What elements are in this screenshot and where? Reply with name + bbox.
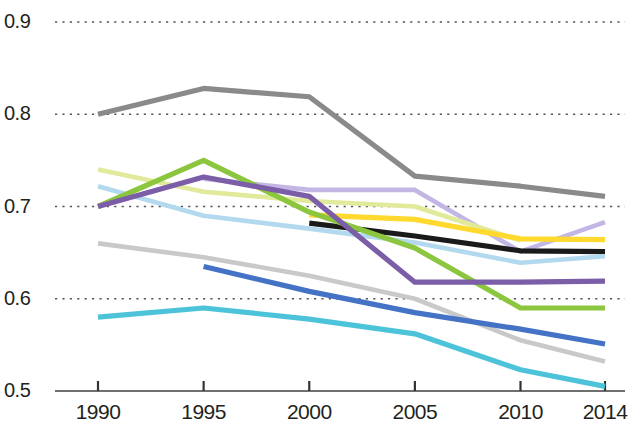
line-chart: 0.90.80.70.60.5 199019952000200520102014 xyxy=(0,0,629,425)
plot-area xyxy=(0,0,629,425)
gridlines xyxy=(55,22,625,299)
x-axis-tick-label: 2005 xyxy=(393,401,438,422)
y-axis-tick-label: 0.6 xyxy=(4,288,30,308)
x-axis-tick-label: 2014 xyxy=(583,401,628,422)
data-series-group xyxy=(98,88,605,386)
series-line-dark-gray xyxy=(98,88,605,196)
series-line-purple xyxy=(98,177,605,282)
x-axis-tick-label: 1990 xyxy=(76,401,121,422)
y-axis-tick-label: 0.5 xyxy=(4,380,30,400)
series-line-cyan xyxy=(98,308,605,386)
y-axis-tick-label: 0.8 xyxy=(4,103,30,123)
y-axis-tick-label: 0.7 xyxy=(4,196,30,216)
axis-ticks xyxy=(98,381,605,391)
x-axis-tick-label: 1995 xyxy=(181,401,226,422)
x-axis-tick-label: 2010 xyxy=(498,401,543,422)
x-axis-tick-label: 2000 xyxy=(287,401,332,422)
y-axis-tick-label: 0.9 xyxy=(4,11,30,31)
